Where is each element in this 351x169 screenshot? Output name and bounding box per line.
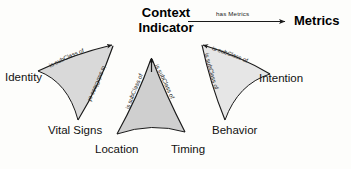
behavior-node[interactable]: Behavior: [212, 124, 257, 137]
has-metrics-edge-label: has Metrics: [216, 10, 249, 17]
intention-node[interactable]: Intention: [259, 72, 303, 85]
context-indicator-line1: Context: [125, 6, 207, 21]
timing-node[interactable]: Timing: [171, 143, 205, 156]
vital-signs-node[interactable]: Vital Signs: [48, 124, 102, 137]
context-indicator-line2: Indicator: [125, 21, 207, 36]
location-node[interactable]: Location: [95, 143, 138, 156]
diagram-canvas: is subClass of is subClass of is subClas…: [0, 0, 351, 169]
context-indicator-node[interactable]: Context Indicator: [125, 6, 207, 35]
identity-node[interactable]: Identity: [5, 71, 42, 84]
metrics-node[interactable]: Metrics: [294, 14, 340, 29]
